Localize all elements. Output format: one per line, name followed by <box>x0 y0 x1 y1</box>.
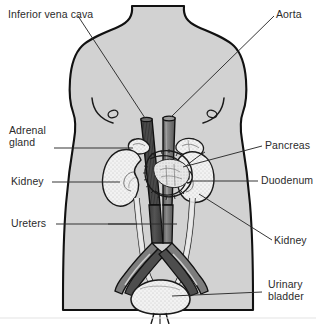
label-pancreas: Pancreas <box>265 140 310 152</box>
anatomy-illustration <box>0 0 316 324</box>
label-aorta: Aorta <box>276 9 302 21</box>
label-urinary-bladder: Urinary bladder <box>268 279 304 302</box>
torso-silhouette <box>63 6 253 310</box>
label-kidney-right: Kidney <box>274 235 307 247</box>
label-kidney-left: Kidney <box>11 176 44 188</box>
label-ureters: Ureters <box>11 218 46 230</box>
anatomy-figure: Inferior vena cava Aorta Adrenal gland K… <box>0 0 316 324</box>
label-adrenal-gland: Adrenal gland <box>9 125 46 148</box>
label-duodenum: Duodenum <box>261 175 313 187</box>
label-inferior-vena-cava: Inferior vena cava <box>8 9 93 21</box>
